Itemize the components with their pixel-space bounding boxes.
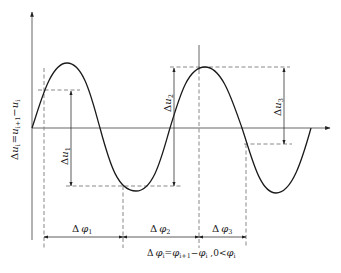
label-delta-phi2: Δφ2: [150, 223, 170, 236]
label-delta-u1: Δu1: [59, 147, 72, 165]
label-delta-u2: Δu2: [162, 94, 175, 112]
axes: [32, 12, 330, 240]
phase-difference-diagram: Δui=ui+1−ui Δu1 Δu2 Δu3 Δφ1 Δφ2 Δφ3 Δφi=…: [0, 0, 341, 273]
label-delta-phi3: Δφ3: [212, 223, 232, 236]
amplitude-arrows: [71, 68, 284, 186]
y-axis-label: Δui=ui+1−ui: [9, 100, 22, 160]
label-delta-u3: Δu3: [272, 98, 285, 116]
phase-formula: Δφi=φi+1−φi ,0<φi: [147, 247, 236, 260]
guide-lines: [38, 67, 292, 248]
label-delta-phi1: Δφ1: [72, 223, 92, 236]
